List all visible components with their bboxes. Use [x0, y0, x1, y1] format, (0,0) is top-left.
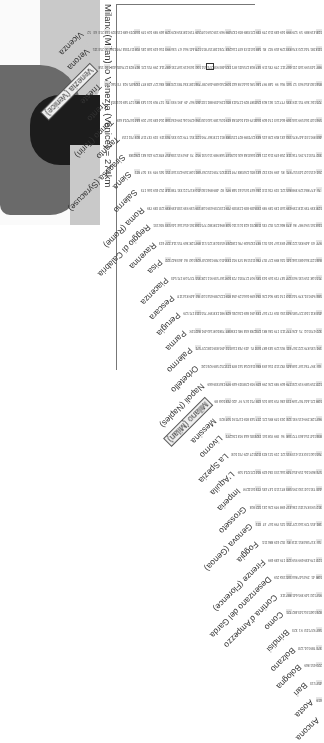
distance-cell: 84	[195, 293, 201, 298]
distance-cell: 389	[243, 29, 249, 34]
distance-cell: 551	[262, 240, 268, 245]
distance-cell: 1175	[237, 416, 243, 421]
distance-cell: 543	[171, 275, 177, 280]
distance-cell: 1011	[249, 46, 255, 51]
distance-cell: 826	[316, 609, 322, 614]
distance-cell: 227	[165, 240, 171, 245]
distance-cell: 1017	[237, 222, 243, 227]
distance-cell: 1304	[304, 609, 310, 614]
distance-cell: 415	[237, 64, 243, 69]
distance-cell: 1323	[201, 99, 207, 104]
distance-cell: 1074	[243, 398, 249, 403]
distance-cell: 913	[268, 169, 274, 174]
distance-cell: 1326	[135, 81, 141, 86]
distance-cell: 334	[256, 293, 262, 298]
distance-cell: 221	[262, 152, 268, 157]
distance-cell: 1271	[249, 134, 255, 139]
distance-cell: 1128	[280, 328, 286, 333]
distance-cell: 191	[231, 416, 237, 421]
distance-cell: 1029	[304, 169, 310, 174]
distance-cell: 379	[298, 293, 304, 298]
distance-cell: 747	[147, 134, 153, 139]
distance-cell: 1287	[268, 134, 274, 139]
distance-cell: 767	[298, 398, 304, 403]
distance-cell: 1139	[219, 205, 225, 210]
distance-cell: 127	[128, 99, 134, 104]
distance-cell: 75	[249, 345, 255, 350]
distance-cell: 922	[268, 46, 274, 51]
distance-cell: 693	[280, 240, 286, 245]
distance-cell: 1211	[262, 416, 268, 421]
distance-cell: 140	[171, 222, 177, 227]
distance-cell: 332	[316, 152, 322, 157]
distance-cell: 129	[237, 293, 243, 298]
distance-cell: 836	[316, 433, 322, 438]
distance-cell: 397	[310, 363, 316, 368]
distance-cell: 357	[262, 257, 268, 262]
distance-cell: 911	[207, 275, 213, 280]
frame-top-line	[116, 4, 255, 5]
distance-cell: 73	[116, 81, 122, 86]
distance-cell: 367	[135, 64, 141, 69]
distance-cell: 1339	[213, 310, 219, 315]
distance-cell: 146	[256, 81, 262, 86]
distance-cell: 453	[316, 310, 322, 315]
distance-cell: 507	[141, 169, 147, 174]
distance-cell: 1269	[262, 293, 268, 298]
distance-cell: 334	[122, 46, 128, 51]
distance-cell: 179	[280, 557, 286, 562]
distance-cell: 1118	[292, 539, 298, 544]
distance-cell: 797	[231, 169, 237, 174]
distance-cell: 1221	[165, 257, 171, 262]
distance-cell: 775	[201, 222, 207, 227]
distance-cell: 1065	[310, 609, 316, 614]
distance-cell: 1279	[243, 275, 249, 280]
distance-cell: 949	[310, 293, 316, 298]
distance-cell: 387	[225, 328, 231, 333]
distance-cell: 1255	[231, 134, 237, 139]
distance-cell: 353	[110, 99, 116, 104]
distance-cell: 1279	[153, 81, 159, 86]
distance-cell: 367	[207, 134, 213, 139]
distance-cell: 568	[219, 152, 225, 157]
distance-cell: 1091	[268, 275, 274, 280]
distance-cell: 673	[310, 328, 316, 333]
distance-cell: 1044	[280, 469, 286, 474]
distance-cell: 1299	[243, 486, 249, 491]
distance-cell: 1118	[316, 46, 322, 51]
distance-cell: 755	[177, 240, 183, 245]
distance-cell: 1207	[177, 134, 183, 139]
distance-cell: 227	[201, 345, 207, 350]
distance-cell: 299	[304, 416, 310, 421]
distance-cell: 322	[316, 328, 322, 333]
distance-cell: 133	[256, 310, 262, 315]
distance-cell: 463	[298, 433, 304, 438]
distance-cell: 459	[274, 46, 280, 51]
distance-cell: 334	[268, 469, 274, 474]
distance-cell: 325	[219, 169, 225, 174]
distance-cell: 797	[116, 46, 122, 51]
distance-cell: 189	[213, 117, 219, 122]
distance-cell: 1153	[262, 539, 268, 544]
distance-cell: 166	[104, 64, 110, 69]
distance-cell: 521	[268, 451, 274, 456]
distance-cell: 1319	[304, 134, 310, 139]
distance-cell: 639	[286, 205, 292, 210]
distance-cell: 352	[280, 539, 286, 544]
distance-cell: 139	[195, 205, 201, 210]
distance-cell: 251	[286, 521, 292, 526]
distance-cell: 727	[189, 275, 195, 280]
distance-cell: 1029	[310, 117, 316, 122]
distance-cell: 609	[280, 381, 286, 386]
distance-cell: 445	[286, 363, 292, 368]
distance-cell: 417	[286, 504, 292, 509]
distance-cell: 647	[249, 187, 255, 192]
distance-cell: 878	[231, 363, 237, 368]
distance-cell: 1193	[292, 99, 298, 104]
distance-cell: 439	[274, 557, 280, 562]
distance-cell: 163	[262, 275, 268, 280]
distance-cell: 413	[231, 99, 237, 104]
distance-cell: 1079	[274, 240, 280, 245]
distance-cell: 979	[153, 169, 159, 174]
distance-cell: 1179	[177, 293, 183, 298]
